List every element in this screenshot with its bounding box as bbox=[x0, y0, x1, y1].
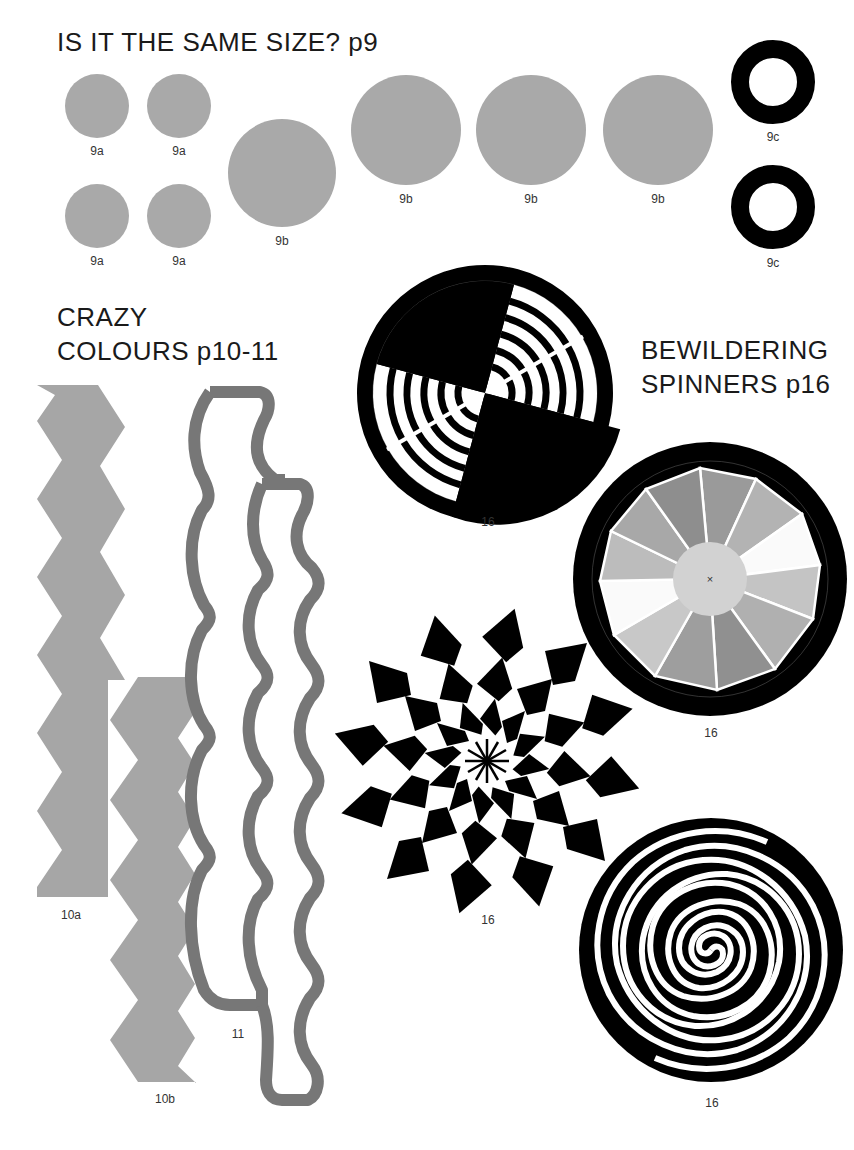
figure-label: 16 bbox=[473, 913, 503, 927]
spinner-spiral bbox=[568, 808, 854, 1098]
svg-text:×: × bbox=[707, 573, 713, 585]
figure-label: 16 bbox=[696, 726, 726, 740]
figure-label: 16 bbox=[697, 1096, 727, 1110]
figure-label: 11 bbox=[223, 1027, 253, 1041]
figure-label: 16 bbox=[473, 515, 503, 529]
